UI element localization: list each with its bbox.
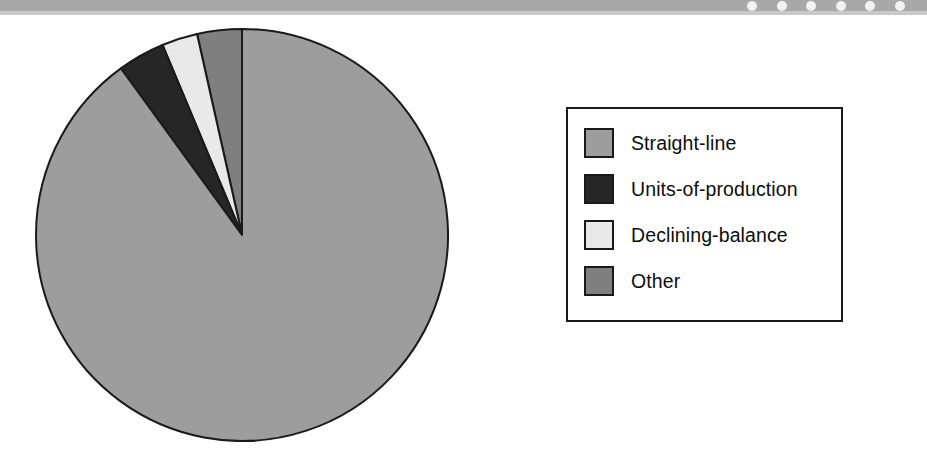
scanner-dot	[836, 1, 846, 11]
legend-item: Declining-balance	[584, 212, 833, 258]
legend-item-label: Units-of-production	[631, 178, 798, 201]
legend-item-list: Straight-lineUnits-of-productionDeclinin…	[584, 120, 833, 304]
legend-color-swatch	[584, 128, 614, 158]
scanner-dot	[806, 1, 816, 11]
pie-chart: Other: 3.5%Declining-balance: 2.8%Units-…	[35, 28, 449, 442]
legend-item-label: Straight-line	[631, 132, 736, 155]
pie-slice: Straight-line: 90%	[36, 29, 448, 441]
scanner-dot	[865, 1, 875, 11]
legend-color-swatch	[584, 220, 614, 250]
legend-item: Straight-line	[584, 120, 833, 166]
legend-item-label: Declining-balance	[631, 224, 788, 247]
legend-color-swatch	[584, 266, 614, 296]
chart-legend: Straight-lineUnits-of-productionDeclinin…	[566, 107, 843, 322]
legend-item: Units-of-production	[584, 166, 833, 212]
pie-chart-figure: Other: 3.5%Declining-balance: 2.8%Units-…	[0, 0, 927, 464]
legend-item: Other	[584, 258, 833, 304]
legend-color-swatch	[584, 174, 614, 204]
pie-slice-group: Other: 3.5%Declining-balance: 2.8%Units-…	[36, 29, 448, 441]
scanner-dot	[747, 1, 757, 11]
legend-item-label: Other	[631, 270, 680, 293]
pie-chart-svg: Other: 3.5%Declining-balance: 2.8%Units-…	[35, 28, 449, 442]
scanner-dot	[777, 1, 787, 11]
scanner-edge-band-shadow	[0, 11, 927, 15]
scanner-dot	[895, 1, 905, 11]
